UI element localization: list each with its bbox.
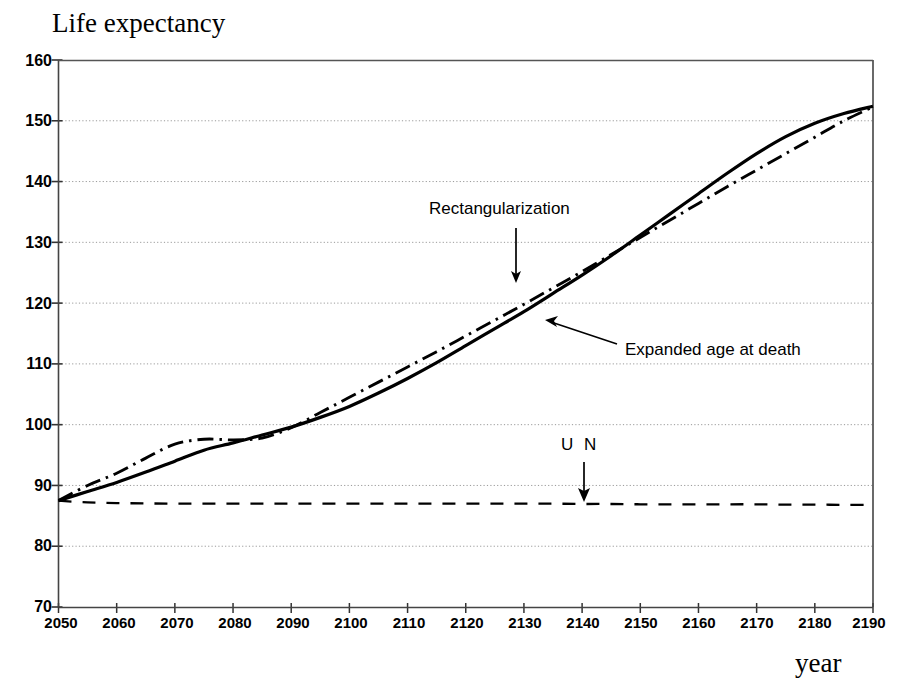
series-line-un	[59, 501, 874, 505]
series-line-rectangularization	[59, 107, 874, 501]
data-series-layer	[59, 106, 874, 505]
chart-container: Life expectancy 70 80 90 100 110 120 130…	[0, 0, 899, 687]
annotation-label-expanded-age-at-death: Expanded age at death	[625, 340, 801, 360]
annotation-arrow-rectangularization	[511, 228, 521, 283]
gridlines	[59, 121, 874, 546]
annotation-label-rectangularization: Rectangularization	[429, 199, 570, 219]
annotation-arrow-expanded-age-at-death	[545, 316, 617, 344]
annotation-label-un: U N	[561, 435, 599, 455]
x-axis-title: year	[795, 648, 841, 679]
annotation-arrow-un	[578, 462, 590, 502]
